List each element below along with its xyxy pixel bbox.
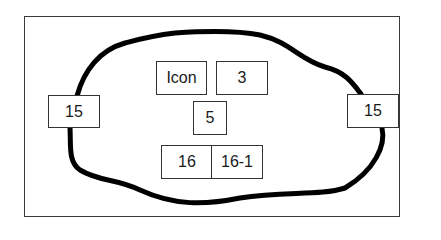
icon-box: Icon (156, 61, 207, 95)
right-terminal-box: 15 (347, 94, 399, 128)
box-5: 5 (193, 101, 227, 135)
box-16-1: 16-1 (211, 145, 263, 179)
box-16: 16 (161, 145, 213, 179)
left-terminal-box: 15 (48, 95, 100, 128)
box-3: 3 (216, 61, 268, 95)
